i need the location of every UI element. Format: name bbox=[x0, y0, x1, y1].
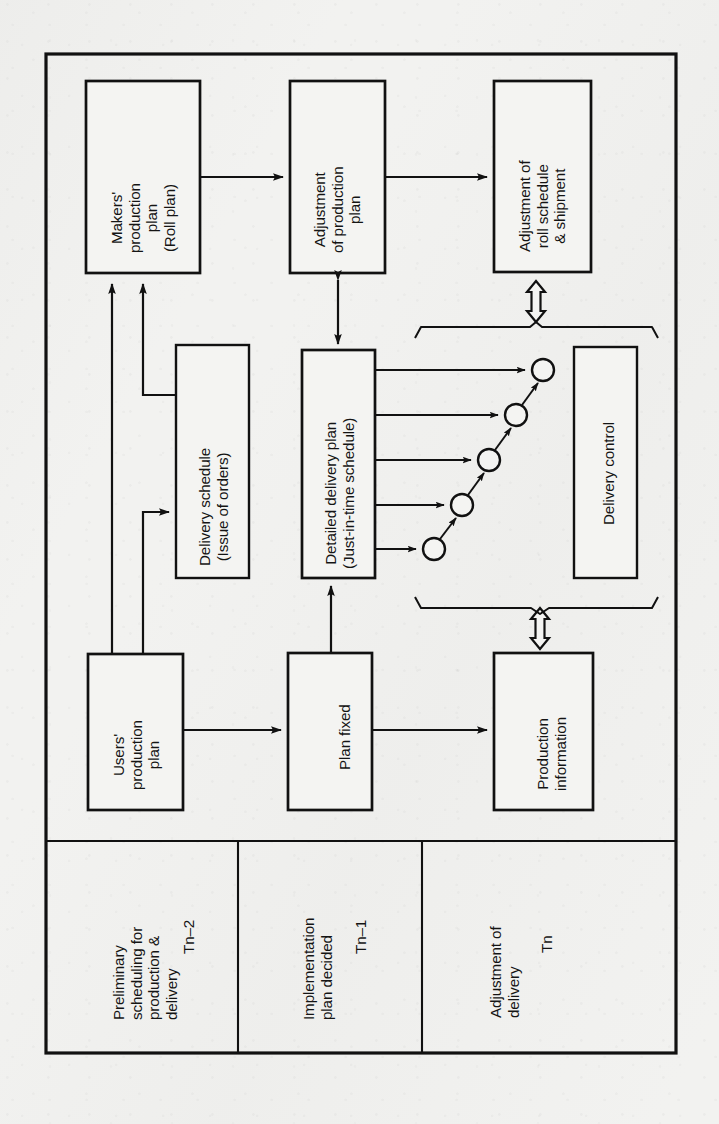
brace-upper bbox=[415, 322, 658, 338]
box-adjustment-of-roll-schedule-shipment bbox=[494, 81, 591, 272]
box-plan-fixed bbox=[288, 653, 372, 810]
network-node-5 bbox=[532, 359, 554, 381]
network-node-3 bbox=[478, 449, 500, 471]
network-node-4 bbox=[505, 404, 527, 426]
connector-users-plan-to-delivery-schedule bbox=[143, 512, 169, 654]
box-adjustment-of-production-plan bbox=[290, 81, 385, 273]
flow-diagram-canvas bbox=[0, 0, 719, 1124]
box-production-information bbox=[494, 653, 593, 810]
connector-node-3-to-node-4 bbox=[495, 428, 511, 450]
network-node-2 bbox=[451, 494, 473, 516]
box-delivery-control bbox=[574, 347, 637, 578]
connector-node-1-to-node-2 bbox=[440, 518, 456, 539]
connector-delivery-schedule-to-makers bbox=[143, 284, 176, 395]
figure-page: Makers' production plan (Roll plan) Adju… bbox=[0, 0, 719, 1124]
box-users-production-plan bbox=[88, 654, 183, 810]
box-detailed-delivery-plan bbox=[302, 350, 375, 578]
box-delivery-schedule bbox=[176, 345, 249, 578]
brace-lower bbox=[415, 597, 658, 614]
box-makers-production-plan bbox=[86, 81, 200, 273]
connector-node-2-to-node-3 bbox=[468, 473, 484, 495]
hollow-arrow-roll-to-delivery-group bbox=[527, 281, 545, 322]
connector-node-4-to-node-5 bbox=[522, 383, 538, 405]
network-node-1 bbox=[423, 538, 445, 560]
